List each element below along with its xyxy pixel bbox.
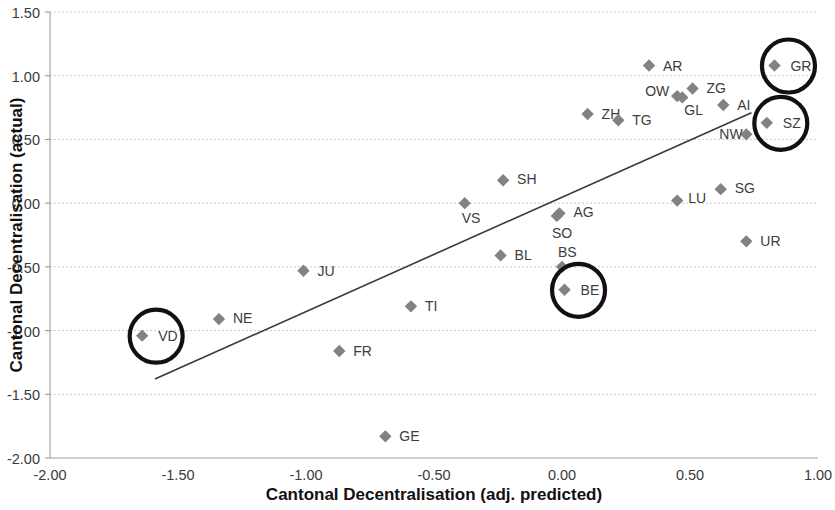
point-label: GL xyxy=(684,102,703,118)
x-tick-label: 0.50 xyxy=(676,467,704,483)
y-tick-label: 1.50 xyxy=(12,5,40,21)
data-point: GR xyxy=(768,58,811,74)
point-label: GR xyxy=(790,58,811,74)
point-label: AR xyxy=(663,58,682,74)
point-label: GE xyxy=(399,428,419,444)
y-axis-title: Cantonal Decentralisation (actual) xyxy=(7,98,26,373)
diamond-marker xyxy=(581,108,593,120)
data-points: ARGROWZGGLAIZHTGSZNWSHSGLUVSAGSOURBLBSJU… xyxy=(136,58,812,445)
y-tick-label: -1.50 xyxy=(7,387,40,403)
data-point: SH xyxy=(497,171,537,187)
diamond-marker xyxy=(213,313,225,325)
diamond-marker xyxy=(761,117,773,129)
data-point: TI xyxy=(405,298,438,314)
diamond-marker xyxy=(459,197,471,209)
diamond-marker xyxy=(686,82,698,94)
x-tick-label: 1.00 xyxy=(804,467,832,483)
data-point: NW xyxy=(719,126,752,142)
diamond-marker xyxy=(768,59,780,71)
trend-line-segment xyxy=(155,113,751,379)
point-label: SH xyxy=(517,171,536,187)
x-axis-tick-labels: -2.00-1.50-1.00-0.500.000.501.00 xyxy=(33,467,832,483)
point-label: BL xyxy=(515,247,532,263)
data-point: TG xyxy=(612,112,652,128)
axis-lines xyxy=(45,12,818,458)
x-tick-label: -0.50 xyxy=(417,467,450,483)
diamond-marker xyxy=(379,430,391,442)
point-label: VD xyxy=(158,328,177,344)
data-point: SO xyxy=(551,210,573,241)
point-label: FR xyxy=(353,343,372,359)
diamond-marker xyxy=(297,264,309,276)
diamond-marker xyxy=(333,345,345,357)
y-tick-label: -2.00 xyxy=(7,451,40,467)
point-label: JU xyxy=(317,263,334,279)
point-label: LU xyxy=(688,190,706,206)
point-label: UR xyxy=(760,233,780,249)
point-label: TI xyxy=(425,298,437,314)
x-tick-label: -1.00 xyxy=(289,467,322,483)
data-point: OW xyxy=(645,83,683,102)
point-label: SG xyxy=(735,180,755,196)
point-label: TG xyxy=(632,112,651,128)
point-label: BS xyxy=(558,244,577,260)
chart-canvas: ARGROWZGGLAIZHTGSZNWSHSGLUVSAGSOURBLBSJU… xyxy=(0,0,835,510)
diamond-marker xyxy=(717,99,729,111)
x-tick-label: 0.00 xyxy=(548,467,576,483)
point-label: AG xyxy=(573,204,593,220)
diamond-marker xyxy=(136,329,148,341)
point-label: ZG xyxy=(707,80,726,96)
x-axis-title: Cantonal Decentralisation (adj. predicte… xyxy=(266,485,602,504)
data-point: BE xyxy=(558,282,599,298)
data-point: VD xyxy=(136,328,178,344)
trend-line xyxy=(155,113,751,379)
data-point: SG xyxy=(715,180,755,196)
data-point: FR xyxy=(333,343,372,359)
diamond-marker xyxy=(497,174,509,186)
y-tick-label: 1.00 xyxy=(12,69,40,85)
data-point: BL xyxy=(494,247,532,263)
data-point: SZ xyxy=(761,115,802,131)
diamond-marker xyxy=(405,300,417,312)
point-label: AI xyxy=(737,97,750,113)
data-point: GL xyxy=(676,91,703,118)
point-label: NE xyxy=(233,310,252,326)
data-point: JU xyxy=(297,263,334,279)
data-point: ZG xyxy=(686,80,726,96)
diamond-marker xyxy=(715,183,727,195)
diamond-marker xyxy=(740,235,752,247)
data-point: NE xyxy=(213,310,253,326)
data-point: UR xyxy=(740,233,780,249)
point-label: OW xyxy=(645,83,670,99)
point-label: SZ xyxy=(783,115,801,131)
point-label: NW xyxy=(719,126,743,142)
point-label: SO xyxy=(552,225,572,241)
data-point: VS xyxy=(459,197,481,226)
data-point: LU xyxy=(671,190,706,207)
diamond-marker xyxy=(643,59,655,71)
diamond-marker xyxy=(671,194,683,206)
data-point: AR xyxy=(643,58,683,74)
data-point: GE xyxy=(379,428,419,444)
point-label: BE xyxy=(581,282,600,298)
diamond-marker xyxy=(558,284,570,296)
point-label: VS xyxy=(462,210,481,226)
x-tick-label: -1.50 xyxy=(161,467,194,483)
scatter-chart: ARGROWZGGLAIZHTGSZNWSHSGLUVSAGSOURBLBSJU… xyxy=(0,0,835,510)
data-point: AI xyxy=(717,97,750,113)
gridlines xyxy=(50,76,818,395)
diamond-marker xyxy=(494,249,506,261)
x-tick-label: -2.00 xyxy=(33,467,66,483)
